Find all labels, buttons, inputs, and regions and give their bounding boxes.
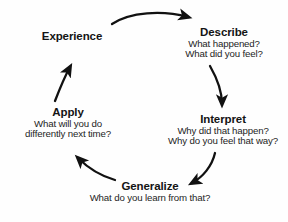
node-apply-line-2: differently next time? bbox=[4, 129, 132, 139]
arrow-generalize-to-apply bbox=[78, 158, 115, 180]
arrow-describe-to-interpret bbox=[210, 66, 222, 104]
node-apply[interactable]: Apply What will you do differently next … bbox=[4, 106, 132, 140]
arrow-interpret-to-generalize bbox=[192, 153, 215, 183]
node-describe-line-2: What did you feel? bbox=[160, 49, 288, 59]
node-interpret-title: Interpret bbox=[158, 113, 288, 125]
diagram-canvas: Experience Describe What happened? What … bbox=[0, 0, 288, 222]
node-experience-title: Experience bbox=[0, 30, 144, 42]
node-apply-title: Apply bbox=[4, 106, 132, 118]
node-experience[interactable]: Experience bbox=[0, 30, 144, 42]
node-generalize-line-1: What do you learn from that? bbox=[60, 193, 240, 203]
node-describe-title: Describe bbox=[160, 26, 288, 38]
node-generalize[interactable]: Generalize What do you learn from that? bbox=[60, 180, 240, 204]
node-generalize-title: Generalize bbox=[60, 180, 240, 192]
arrow-apply-to-experience bbox=[55, 67, 70, 101]
node-interpret-line-2: Why do you feel that way? bbox=[158, 136, 288, 146]
arrow-experience-to-describe bbox=[112, 13, 188, 24]
node-interpret[interactable]: Interpret Why did that happen? Why do yo… bbox=[158, 113, 288, 147]
node-describe[interactable]: Describe What happened? What did you fee… bbox=[160, 26, 288, 60]
